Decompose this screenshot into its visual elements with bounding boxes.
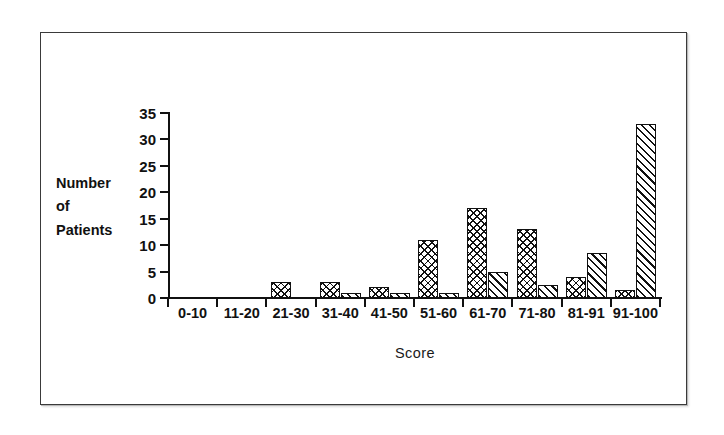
x-axis-tick-label: 51-60: [420, 306, 457, 321]
bar-series-1-61-70: [467, 208, 487, 298]
bar-series-2-61-70: [488, 272, 508, 298]
bar-series-2-41-50: [390, 293, 410, 298]
bar-series-1-91-100: [615, 290, 635, 298]
x-axis-tick-label: 61-70: [469, 306, 506, 321]
x-axis-tick: [511, 299, 513, 307]
bar-series-2-91-100: [636, 124, 656, 298]
x-axis-tick: [167, 299, 169, 307]
x-axis-tick-label: 11-20: [224, 306, 260, 321]
x-axis-tick-label: 31-40: [322, 306, 359, 321]
bar-series-1-31-40: [320, 282, 340, 298]
x-axis-tick: [659, 299, 661, 307]
bar-series-1-81-91: [566, 277, 586, 298]
y-axis-title-line-2: of: [56, 195, 132, 218]
y-axis-tick-label: 20: [126, 185, 156, 200]
x-axis-tick-label: 21-30: [272, 306, 309, 321]
x-axis-tick-label: 81-91: [568, 306, 605, 321]
y-axis-tick: [160, 271, 168, 273]
bar-series-2-71-80: [538, 285, 558, 298]
y-axis-tick-labels: 05101520253035: [124, 0, 156, 435]
x-axis-tick: [610, 299, 612, 307]
y-axis-title: Number of Patients: [56, 172, 132, 242]
bar-series-2-51-60: [439, 293, 459, 298]
x-axis-tick: [265, 299, 267, 307]
y-axis-tick-label: 30: [126, 132, 156, 147]
y-axis-tick: [160, 165, 168, 167]
x-axis-tick: [315, 299, 317, 307]
y-axis-tick-label: 15: [126, 211, 156, 226]
y-axis-tick-label: 25: [126, 158, 156, 173]
y-axis-tick-label: 5: [126, 264, 156, 279]
y-axis-tick-label: 10: [126, 238, 156, 253]
y-axis-tick: [160, 138, 168, 140]
x-axis-tick: [413, 299, 415, 307]
x-axis-tick-label: 71-80: [518, 306, 555, 321]
y-axis-title-line-1: Number: [56, 172, 132, 195]
bar-series-1-21-30: [271, 282, 291, 298]
y-axis-tick-label: 35: [126, 106, 156, 121]
y-axis-tick: [160, 112, 168, 114]
y-axis-tick-label: 0: [126, 291, 156, 306]
bar-series-2-81-91: [587, 253, 607, 298]
bar-series-1-51-60: [418, 240, 438, 298]
plot-area: [168, 113, 660, 298]
x-axis-tick: [462, 299, 464, 307]
y-axis-tick: [160, 191, 168, 193]
y-axis-tick: [160, 218, 168, 220]
x-axis-tick: [364, 299, 366, 307]
y-axis-tick: [160, 244, 168, 246]
x-axis-tick-label: 0-10: [178, 306, 207, 321]
y-axis-title-line-3: Patients: [56, 219, 132, 242]
x-axis-tick-label: 91-100: [613, 306, 658, 321]
x-axis-tick: [561, 299, 563, 307]
bar-series-1-41-50: [369, 287, 389, 298]
x-axis-tick: [216, 299, 218, 307]
bar-series-1-71-80: [517, 229, 537, 298]
x-axis-tick-label: 41-50: [371, 306, 408, 321]
bar-series-2-31-40: [341, 293, 361, 298]
x-axis-title: Score: [168, 345, 662, 361]
